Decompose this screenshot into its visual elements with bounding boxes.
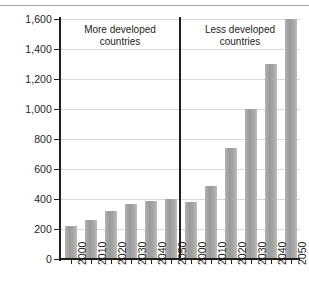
x-tick-label-less-developed-2020: 2020 — [236, 242, 248, 265]
x-tick-label-less-developed-2050: 2050 — [296, 242, 308, 265]
x-tick-mark — [71, 260, 72, 264]
bar-less-developed-2050 — [285, 19, 297, 259]
panel-divider-line — [179, 17, 181, 260]
y-axis-line — [59, 17, 61, 261]
x-tick-mark — [171, 260, 172, 264]
y-tick-label-1400: 1,400 — [0, 44, 52, 54]
x-tick-mark — [291, 260, 292, 264]
x-tick-mark — [91, 260, 92, 264]
x-tick-mark — [251, 260, 252, 264]
y-tick-label-200: 200 — [0, 224, 52, 234]
y-tick-label-1000: 1,000 — [0, 104, 52, 114]
x-tick-mark — [151, 260, 152, 264]
y-tick-label-1600: 1,600 — [0, 14, 52, 24]
x-tick-mark — [271, 260, 272, 264]
bar-less-developed-2030 — [245, 109, 257, 259]
y-tick-label-400: 400 — [0, 194, 52, 204]
x-tick-mark — [111, 260, 112, 264]
x-tick-mark — [211, 260, 212, 264]
panel-title-line: More developed — [61, 24, 179, 36]
panel-title-line: countries — [181, 36, 299, 48]
x-tick-label-more-developed-2040: 2040 — [156, 242, 168, 265]
panel-title-more-developed: More developedcountries — [61, 24, 179, 48]
x-tick-label-less-developed-2040: 2040 — [276, 242, 288, 265]
x-tick-mark — [231, 260, 232, 264]
x-tick-label-more-developed-2010: 2010 — [96, 242, 108, 265]
top-divider-rule — [0, 5, 309, 6]
x-tick-label-more-developed-2020: 2020 — [116, 242, 128, 265]
x-tick-label-more-developed-2030: 2030 — [136, 242, 148, 265]
x-tick-label-less-developed-2010: 2010 — [216, 242, 228, 265]
x-tick-label-less-developed-2030: 2030 — [256, 242, 268, 265]
y-tick-label-800: 800 — [0, 134, 52, 144]
y-tick-label-1200: 1,200 — [0, 74, 52, 84]
y-tick-label-0: 0 — [0, 254, 52, 264]
x-tick-label-more-developed-2050: 2050 — [176, 242, 188, 265]
panel-title-line: Less developed — [181, 24, 299, 36]
x-tick-label-less-developed-2000: 2000 — [196, 242, 208, 265]
x-tick-mark — [191, 260, 192, 264]
panel-title-less-developed: Less developedcountries — [181, 24, 299, 48]
population-bar-chart: Millions 1,6001,4001,2001,00080060040020… — [0, 0, 309, 305]
x-tick-label-more-developed-2000: 2000 — [76, 242, 88, 265]
y-tick-label-600: 600 — [0, 164, 52, 174]
panel-title-line: countries — [61, 36, 179, 48]
bar-less-developed-2040 — [265, 64, 277, 259]
x-tick-mark — [131, 260, 132, 264]
